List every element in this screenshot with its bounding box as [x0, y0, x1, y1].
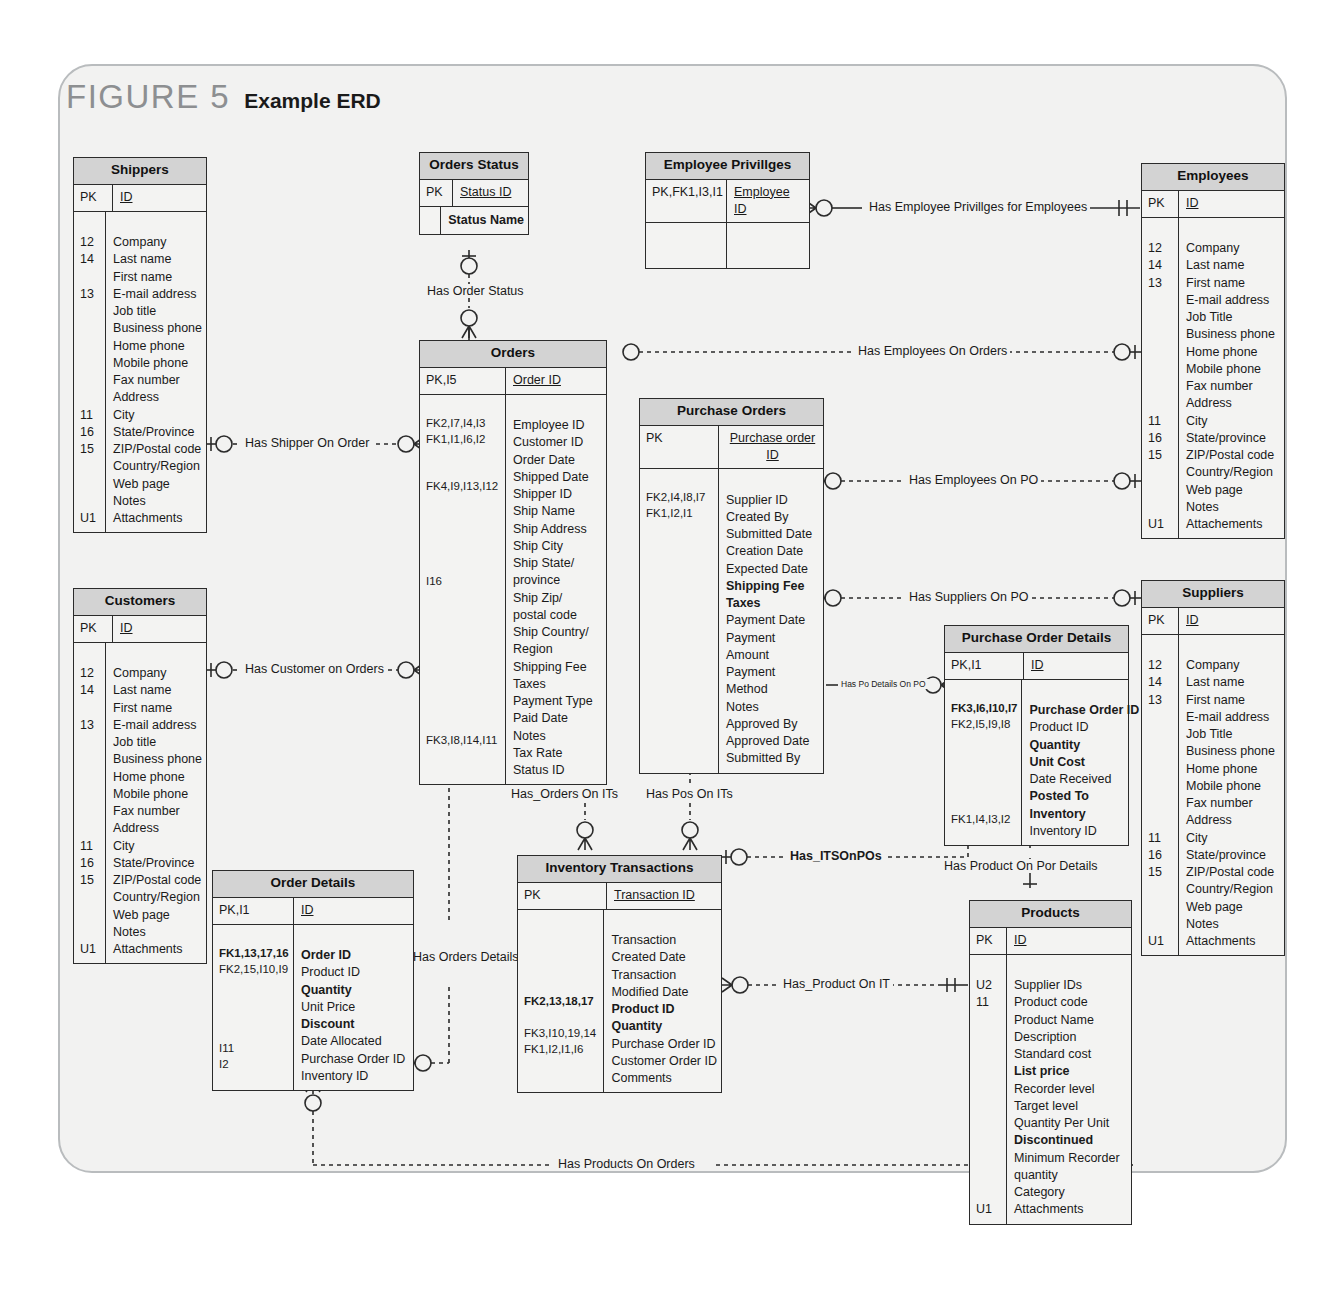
entity-inventory-transactions[interactable]: Inventory Transactions PK Transaction ID…	[517, 855, 722, 1093]
attr-column: TransactionCreated DateTransaction Modif…	[603, 910, 721, 1093]
pk-key: PK,I1	[945, 653, 1023, 679]
attribute-list: 121413x xxxx xx1116 15xxx U1 CompanyLast…	[1142, 218, 1284, 539]
entity-shippers[interactable]: Shippers PK ID 1214x13 xxxx xx1116 15xxx…	[73, 157, 207, 533]
attr-column: CompanyLast nameFirst name E-mail addres…	[1178, 635, 1284, 956]
attr-column: Supplier IDsProduct codeProduct Name Des…	[1006, 955, 1131, 1224]
rel-label-has-po-details-on-po: Has Po Details On PO	[838, 679, 929, 689]
rel-label-has-shipper-on-order: Has Shipper On Order	[242, 436, 372, 450]
rel-label-has-customer-on-orders: Has Customer on Orders	[242, 662, 387, 676]
pk-key: PK	[1142, 608, 1178, 634]
pk-key: PK	[74, 616, 112, 642]
pk-key: PK	[1142, 191, 1178, 217]
rel-label-has-orders-details: Has Orders Details	[410, 950, 522, 964]
entity-title: Order Details	[213, 871, 413, 898]
figure-number: FIGURE 5	[66, 78, 230, 116]
attr-status-name: Status Name	[448, 212, 524, 229]
entity-title: Suppliers	[1142, 581, 1284, 608]
key-column: FK3,I6,I10,I7FK2,I5,I9,I8 xxx xx FK1,I4,…	[945, 680, 1021, 845]
pk-key: PK,I1	[213, 898, 293, 924]
figure-heading: FIGURE 5 Example ERD	[66, 78, 381, 116]
rel-label-has-employees-on-po: Has Employees On PO	[906, 473, 1041, 487]
attribute-list: FK1,13,17,16FK2,15,I10,I9 xxxx I11I2 Ord…	[213, 925, 413, 1090]
attr-column: Supplier IDCreated BySubmitted Date Crea…	[718, 469, 823, 772]
attr-column: CompanyLast nameFirst name E-mail addres…	[105, 212, 206, 533]
entity-products[interactable]: Products PK ID U211 xxxx xxxx xxx U1 Sup…	[969, 900, 1132, 1225]
pk-key: PK,I5	[420, 368, 505, 394]
rel-label-has-products-on-orders: Has Products On Orders	[555, 1157, 698, 1171]
entity-title: Employees	[1142, 164, 1284, 191]
entity-title: Shippers	[74, 158, 206, 185]
key-column: xxxx FK2,13,18,17x FK3,I10,19,14FK1,I2,I…	[518, 910, 603, 1093]
pk-attr: ID	[1014, 933, 1027, 947]
rel-label-has-employees-on-orders: Has Employees On Orders	[855, 344, 1010, 358]
rel-label-has-order-status: Has Order Status	[424, 284, 527, 298]
entity-title: Orders Status	[420, 153, 528, 180]
entity-orders[interactable]: Orders PK,I5 Order ID FK2,I7,I4,I3FK1,I1…	[419, 340, 607, 785]
attr-column: Order IDProduct IDQuantity Unit PriceDis…	[293, 925, 413, 1090]
entity-order-details[interactable]: Order Details PK,I1 ID FK1,13,17,16FK2,1…	[212, 870, 414, 1091]
pk-attr: Purchase order ID	[730, 431, 815, 462]
attribute-list: FK3,I6,I10,I7FK2,I5,I9,I8 xxx xx FK1,I4,…	[945, 680, 1128, 845]
attribute-list: U211 xxxx xxxx xxx U1 Supplier IDsProduc…	[970, 955, 1131, 1224]
entity-purchase-order-details[interactable]: Purchase Order Details PK,I1 ID FK3,I6,I…	[944, 625, 1129, 846]
entity-title: Purchase Order Details	[945, 626, 1128, 653]
key-column: FK1,13,17,16FK2,15,I10,I9 xxxx I11I2	[213, 925, 293, 1090]
pk-attr: ID	[1186, 613, 1199, 627]
entity-title: Inventory Transactions	[518, 856, 721, 883]
pk-key: PK	[970, 928, 1006, 954]
entity-title: Customers	[74, 589, 206, 616]
pk-attr: ID	[1031, 658, 1044, 672]
attribute-list: xxxx FK2,13,18,17x FK3,I10,19,14FK1,I2,I…	[518, 910, 721, 1093]
rel-label-has-pos-on-its: Has Pos On ITs	[643, 787, 736, 801]
entity-customers[interactable]: Customers PK ID 1214x13 xxxx xx1116 15xx…	[73, 588, 207, 964]
pk-key: PK	[74, 185, 112, 211]
attribute-list: FK2,I7,I4,I3FK1,I1,I6,I2 xx FK4,I9,I13,I…	[420, 395, 606, 785]
pk-attr: ID	[301, 903, 314, 917]
entity-title: Products	[970, 901, 1131, 928]
rel-label-has-orders-on-its: Has_Orders On ITs	[508, 787, 621, 801]
pk-key: PK	[518, 883, 606, 909]
rel-label-has-itsonpos: Has_ITSOnPOs	[787, 849, 885, 863]
key-column: 121413x xxxx xx1116 15xxx U1	[1142, 218, 1178, 539]
attr-column: Purchase Order IDProduct IDQuantity Unit…	[1021, 680, 1143, 845]
key-column: 121413x xxxx xx1116 15xxx U1	[1142, 635, 1178, 956]
pk-attr: ID	[120, 621, 133, 635]
attr-column: CompanyLast nameFirst name E-mail addres…	[105, 643, 206, 964]
attr-column: Employee IDCustomer IDOrder Date Shipped…	[505, 395, 606, 785]
entity-orders-status[interactable]: Orders Status PK Status ID x Status Name	[419, 152, 529, 235]
key-column: FK2,I4,I8,I7FK1,I2,I1 xxxx xxxx xxxx xx	[640, 469, 718, 772]
rel-label-has-product-on-it: Has_Product On IT	[780, 977, 893, 991]
attribute-list: 1214x13 xxxx xx1116 15xxx U1 CompanyLast…	[74, 643, 206, 964]
attribute-list: 1214x13 xxxx xx1116 15xxx U1 CompanyLast…	[74, 212, 206, 533]
pk-attr: ID	[1186, 196, 1199, 210]
entity-title: Purchase Orders	[640, 399, 823, 426]
rel-label-has-employee-privilges: Has Employee Privillges for Employees	[866, 200, 1090, 214]
attribute-list: 121413x xxxx xx1116 15xxx U1 CompanyLast…	[1142, 635, 1284, 956]
pk-attr: Transaction ID	[614, 888, 695, 902]
entity-suppliers[interactable]: Suppliers PK ID 121413x xxxx xx1116 15xx…	[1141, 580, 1285, 956]
pk-attr: Order ID	[513, 373, 561, 387]
key-column: 1214x13 xxxx xx1116 15xxx U1	[74, 643, 105, 964]
entity-employees[interactable]: Employees PK ID 121413x xxxx xx1116 15xx…	[1141, 163, 1285, 539]
key-column: FK2,I7,I4,I3FK1,I1,I6,I2 xx FK4,I9,I13,I…	[420, 395, 505, 785]
pk-key: PK	[420, 180, 452, 206]
entity-title: Orders	[420, 341, 606, 368]
pk-attr: Employee ID	[734, 185, 790, 216]
pk-key: PK	[640, 426, 718, 469]
rel-label-has-product-on-por-details: Has Product On Por Details	[941, 859, 1101, 873]
figure-title: Example ERD	[244, 89, 381, 113]
key-column: 1214x13 xxxx xx1116 15xxx U1	[74, 212, 105, 533]
pk-attr: Status ID	[460, 185, 511, 199]
rel-label-has-suppliers-on-po: Has Suppliers On PO	[906, 590, 1032, 604]
entity-title: Employee Privillges	[646, 153, 809, 180]
attribute-list: FK2,I4,I8,I7FK1,I2,I1 xxxx xxxx xxxx xx …	[640, 469, 823, 772]
entity-purchase-orders[interactable]: Purchase Orders PK Purchase order ID FK2…	[639, 398, 824, 774]
attr-column: CompanyLast nameFirst name E-mail addres…	[1178, 218, 1284, 539]
key-column: U211 xxxx xxxx xxx U1	[970, 955, 1006, 1224]
entity-employee-privilges[interactable]: Employee Privillges PK,FK1,I3,I1 Employe…	[645, 152, 810, 269]
pk-key: PK,FK1,I3,I1	[646, 180, 726, 223]
pk-attr: ID	[120, 190, 133, 204]
